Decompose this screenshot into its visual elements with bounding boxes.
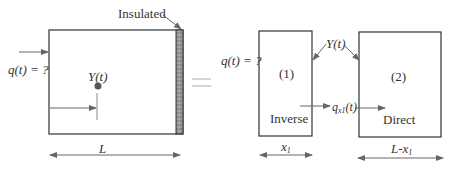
- region-1-name: Inverse: [270, 112, 308, 125]
- flux-label-right: q(t) = ?: [221, 54, 262, 67]
- sensor-label-left: Y(t): [88, 70, 108, 83]
- sensor-pointer-left: [313, 44, 326, 60]
- insulation-layer: [176, 30, 183, 134]
- region-2-number: (2): [391, 70, 406, 83]
- length-label: L: [99, 142, 106, 155]
- region-1-number: (1): [279, 67, 294, 80]
- interface-flux-label: qx1(t): [332, 101, 357, 115]
- region-2-name: Direct: [383, 113, 415, 126]
- insulated-label: Insulated: [118, 7, 166, 20]
- diagram-canvas: [0, 0, 453, 170]
- sensor-label-right: Y(t): [326, 37, 346, 50]
- l-minus-x1-label: L-x1: [391, 142, 412, 157]
- sensor-pointer-right: [345, 46, 359, 60]
- domain-box: [49, 30, 183, 134]
- flux-label-left: q(t) = ?: [8, 63, 49, 76]
- x1-label: x1: [281, 140, 291, 155]
